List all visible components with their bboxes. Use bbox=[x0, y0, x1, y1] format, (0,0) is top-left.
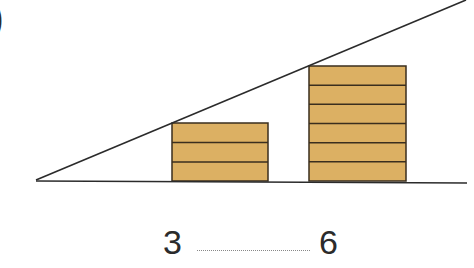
similar-triangle-diagram bbox=[0, 0, 474, 268]
short-stack bbox=[172, 123, 268, 181]
right-value: 6 bbox=[319, 225, 338, 259]
left-value: 3 bbox=[163, 225, 182, 259]
answer-blank[interactable] bbox=[197, 250, 310, 251]
tall-stack bbox=[309, 66, 406, 181]
